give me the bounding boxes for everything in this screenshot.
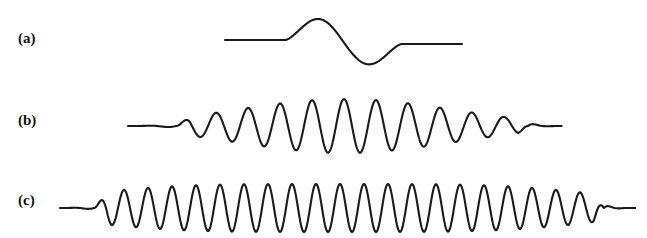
panel-label-a: (a) (18, 30, 36, 47)
waveform-trace-a (225, 19, 462, 64)
panel-label-c: (c) (18, 192, 35, 209)
panel-label-b: (b) (18, 112, 36, 129)
trace-group (60, 19, 635, 232)
waveform-trace-b (128, 99, 562, 153)
waveform-trace-c (60, 184, 635, 232)
waveform-traces (0, 0, 647, 238)
wavelet-figure: (a) (b) (c) (0, 0, 647, 238)
